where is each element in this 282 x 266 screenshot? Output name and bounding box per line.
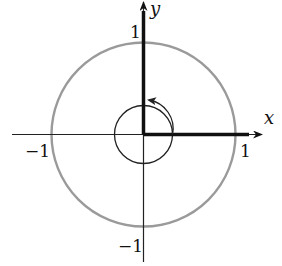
y-tick-pos: 1	[130, 22, 141, 42]
y-tick-neg: −1	[118, 236, 143, 256]
x-tick-pos: 1	[240, 141, 251, 161]
rotation-arrow-icon	[149, 100, 173, 135]
unit-circle-diagram: y x 1 1 −1 −1	[0, 0, 282, 266]
x-tick-neg: −1	[25, 141, 50, 161]
x-axis-label: x	[264, 107, 274, 128]
y-axis-label: y	[149, 0, 161, 19]
